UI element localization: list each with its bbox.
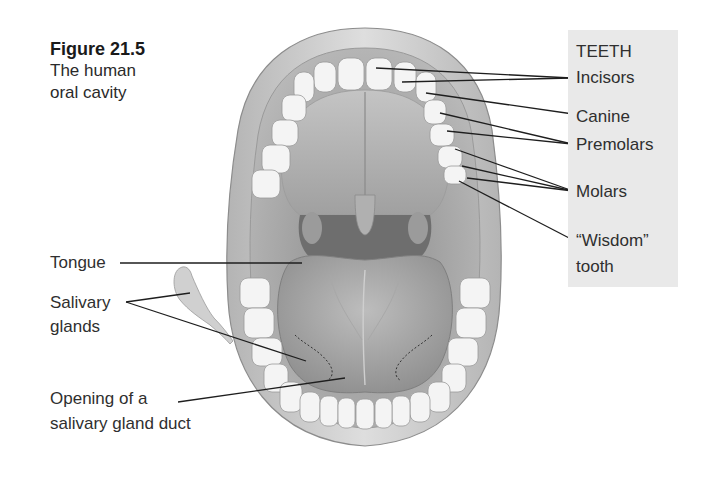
label-canine: Canine [576, 106, 630, 127]
label-molars: Molars [576, 181, 627, 202]
label-duct-opening-line2: salivary gland duct [50, 413, 191, 434]
label-premolars: Premolars [576, 134, 653, 155]
label-salivary-glands-line2: glands [50, 316, 100, 337]
label-tongue: Tongue [50, 252, 106, 273]
figure-number: Figure 21.5 [50, 38, 145, 60]
label-wisdom-tooth-line2: tooth [576, 256, 614, 277]
label-duct-opening-line1: Opening of a [50, 388, 147, 409]
teeth-heading: TEETH [576, 41, 632, 62]
figure-caption: Figure 21.5 The human oral cavity [50, 38, 145, 104]
parotid-gland [174, 267, 233, 344]
label-incisors: Incisors [576, 67, 635, 88]
label-salivary-glands-line1: Salivary [50, 292, 110, 313]
figure-title-line2: oral cavity [50, 82, 145, 104]
label-wisdom-tooth-line1: “Wisdom” [576, 230, 649, 251]
figure-title-line1: The human [50, 60, 145, 82]
